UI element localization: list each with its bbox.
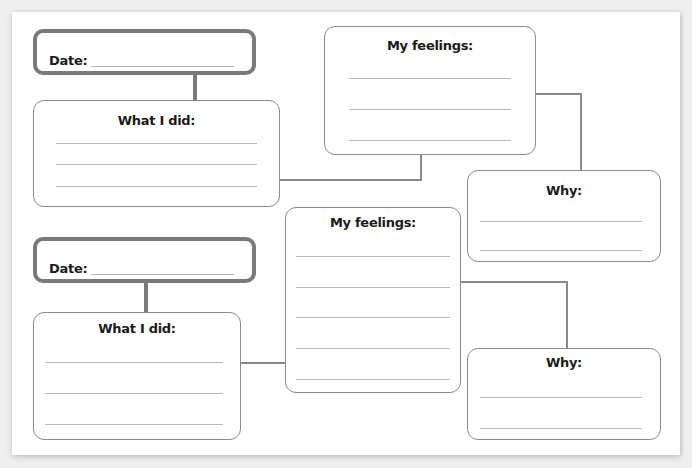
- why-line-1-2[interactable]: [480, 250, 642, 251]
- connector-date-to-what-1: [193, 74, 197, 101]
- my-feelings-line-1-1[interactable]: [349, 78, 511, 79]
- date-input-line-2[interactable]: [91, 274, 234, 275]
- connector-what-to-feelings-1-v: [420, 153, 422, 180]
- what-i-did-line-2-2[interactable]: [45, 393, 223, 394]
- connector-feelings-to-why-1-v: [580, 93, 582, 171]
- my-feelings-line-2-4[interactable]: [296, 348, 450, 349]
- connector-date-to-what-2: [144, 282, 148, 313]
- why-line-2-2[interactable]: [480, 428, 642, 429]
- why-line-2-1[interactable]: [480, 397, 642, 398]
- connector-feelings-to-why-1-h: [535, 93, 581, 95]
- my-feelings-box-1: My feelings:: [324, 26, 536, 155]
- why-box-1: Why:: [467, 170, 661, 262]
- what-i-did-line-1-2[interactable]: [56, 164, 257, 165]
- date-box-2: Date:: [33, 237, 256, 283]
- what-i-did-line-2-1[interactable]: [45, 362, 223, 363]
- my-feelings-line-2-3[interactable]: [296, 317, 450, 318]
- why-title-2: Why:: [468, 355, 660, 370]
- what-i-did-title-2: What I did:: [34, 321, 240, 336]
- date-label-2: Date:: [49, 261, 87, 276]
- date-input-line-1[interactable]: [91, 66, 234, 67]
- my-feelings-line-1-3[interactable]: [349, 140, 511, 141]
- my-feelings-line-2-2[interactable]: [296, 287, 450, 288]
- date-box-1: Date:: [33, 29, 256, 75]
- connector-feelings-to-why-2-v: [566, 281, 568, 349]
- connector-feelings-to-why-2-h: [460, 281, 568, 283]
- date-label-1: Date:: [49, 53, 87, 68]
- connector-what-to-feelings-2: [240, 362, 286, 364]
- my-feelings-line-2-5[interactable]: [296, 379, 450, 380]
- why-box-2: Why:: [467, 348, 661, 440]
- my-feelings-title-2: My feelings:: [286, 215, 460, 230]
- what-i-did-line-1-3[interactable]: [56, 186, 257, 187]
- what-i-did-line-2-3[interactable]: [45, 424, 223, 425]
- connector-what-to-feelings-1-h: [279, 179, 422, 181]
- why-line-1-1[interactable]: [480, 221, 642, 222]
- my-feelings-line-1-2[interactable]: [349, 109, 511, 110]
- why-title-1: Why:: [468, 183, 660, 198]
- my-feelings-title-1: My feelings:: [325, 38, 535, 53]
- what-i-did-line-1-1[interactable]: [56, 143, 257, 144]
- my-feelings-line-2-1[interactable]: [296, 256, 450, 257]
- what-i-did-box-1: What I did:: [33, 100, 280, 207]
- my-feelings-box-2: My feelings:: [285, 207, 461, 393]
- what-i-did-title-1: What I did:: [34, 113, 279, 128]
- what-i-did-box-2: What I did:: [33, 312, 241, 440]
